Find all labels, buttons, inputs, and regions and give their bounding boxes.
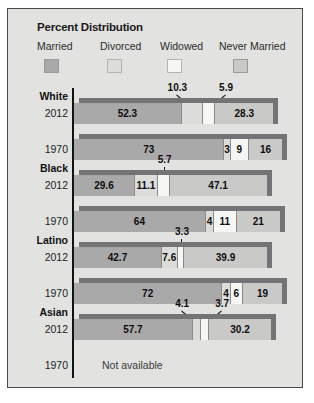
bar-segment-never_married-black-2012: 47.1 xyxy=(170,175,267,196)
bar-segment-widowed-black-1970: 11 xyxy=(214,211,237,232)
bar-side-face xyxy=(271,314,276,340)
year-label-black-1970: 1970 xyxy=(10,215,68,227)
legend-label-divorced: Divorced xyxy=(100,40,141,52)
legend-swatch-married xyxy=(44,59,59,73)
legend-swatch-widowed xyxy=(167,59,182,73)
bar-segment-divorced-asian-2012 xyxy=(193,319,201,340)
bar-row-black-2012: 29.611.147.1 xyxy=(74,175,267,196)
bar-side-face xyxy=(280,206,285,232)
bar-segment-widowed-white-2012 xyxy=(203,103,215,124)
legend-label-married: Married xyxy=(37,40,73,52)
year-label-asian-1970: 1970 xyxy=(10,359,68,371)
bar-segment-widowed-black-2012 xyxy=(158,175,170,196)
value-callout-widowed-asian-2012: 3.7 xyxy=(209,298,235,309)
group-label-black: Black xyxy=(10,162,68,174)
bar-segment-never_married-asian-2012: 30.2 xyxy=(209,319,271,340)
year-label-asian-2012: 2012 xyxy=(10,323,68,335)
bar-row-white-2012: 52.328.3 xyxy=(74,103,273,124)
bar-segment-divorced-black-2012: 11.1 xyxy=(135,175,158,196)
value-callout-widowed-black-2012: 5.7 xyxy=(152,154,178,165)
bar-segment-married-asian-2012: 57.7 xyxy=(74,319,193,340)
bar-side-face xyxy=(273,98,278,124)
bar-segment-never_married-latino-1970: 19 xyxy=(243,283,282,304)
group-label-latino: Latino xyxy=(10,234,68,246)
bar-segment-divorced-black-1970: 4 xyxy=(206,211,214,232)
bar-segment-married-latino-1970: 72 xyxy=(74,283,222,304)
bar-segment-married-latino-2012: 42.7 xyxy=(74,247,162,268)
bar-segment-married-black-2012: 29.6 xyxy=(74,175,135,196)
year-label-black-2012: 2012 xyxy=(10,179,68,191)
bar-row-white-1970: 733916 xyxy=(74,139,282,160)
year-label-latino-1970: 1970 xyxy=(10,287,68,299)
year-label-white-1970: 1970 xyxy=(10,143,68,155)
bar-segment-never_married-latino-2012: 39.9 xyxy=(184,247,266,268)
bar-side-face xyxy=(282,278,287,304)
year-label-latino-2012: 2012 xyxy=(10,251,68,263)
bar-segment-widowed-latino-2012 xyxy=(178,247,185,268)
bar-segment-never_married-white-2012: 28.3 xyxy=(215,103,273,124)
year-label-white-2012: 2012 xyxy=(10,107,68,119)
bar-segment-never_married-white-1970: 16 xyxy=(249,139,282,160)
bar-row-latino-2012: 42.77.639.9 xyxy=(74,247,267,268)
bar-side-face xyxy=(267,242,272,268)
bar-row-asian-2012: 57.730.2 xyxy=(74,319,271,340)
value-callout-widowed-latino-2012: 3.3 xyxy=(169,226,195,237)
bar-segment-divorced-latino-2012: 7.6 xyxy=(162,247,178,268)
legend-label-never_married: Never Married xyxy=(219,40,286,52)
bar-side-face xyxy=(267,170,272,196)
value-callout-widowed-white-2012: 5.9 xyxy=(213,82,239,93)
value-callout-divorced-white-2012: 10.3 xyxy=(164,82,190,93)
bar-segment-never_married-black-1970: 21 xyxy=(237,211,280,232)
group-label-white: White xyxy=(10,90,68,102)
bar-segment-married-white-2012: 52.3 xyxy=(74,103,182,124)
bar-segment-married-white-1970: 73 xyxy=(74,139,224,160)
bar-side-face xyxy=(282,134,287,160)
legend-label-widowed: Widowed xyxy=(160,40,203,52)
chart-frame: Percent Distribution MarriedDivorcedWido… xyxy=(7,8,303,388)
chart-title: Percent Distribution xyxy=(37,21,143,33)
group-label-asian: Asian xyxy=(10,306,68,318)
value-callout-divorced-asian-2012: 4.1 xyxy=(169,298,195,309)
bar-segment-divorced-white-2012 xyxy=(182,103,203,124)
legend-swatch-divorced xyxy=(107,59,122,73)
bar-segment-widowed-asian-2012 xyxy=(201,319,209,340)
bar-segment-widowed-white-1970: 9 xyxy=(231,139,250,160)
legend-swatch-never_married xyxy=(233,59,248,73)
not-available-text: Not available xyxy=(102,359,163,371)
